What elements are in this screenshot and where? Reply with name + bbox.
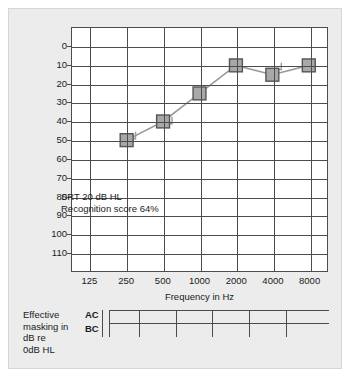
threshold-marker-4000hz	[266, 68, 279, 81]
audiogram-plot-area	[71, 27, 328, 272]
x-tick-label-1000: 1000	[180, 275, 220, 287]
masking-caption-line-4: 0dB HL	[23, 344, 85, 356]
gridline-horizontal-30	[72, 103, 327, 104]
masking-column-divider-4000	[249, 310, 250, 337]
x-tick-label-125: 125	[69, 275, 109, 287]
gridline-horizontal-20	[72, 85, 327, 86]
masking-column-divider-500	[139, 310, 140, 337]
y-tick-label-20: 20	[37, 79, 67, 89]
masking-column-divider-250	[102, 310, 103, 337]
masking-column-divider-1000	[176, 310, 177, 337]
x-tick-label-500: 500	[143, 275, 183, 287]
gridline-horizontal-50	[72, 141, 327, 142]
gridline-horizontal-0	[72, 47, 327, 48]
y-tick-label-40: 40	[37, 116, 67, 126]
masking-caption-line-3: dB re	[23, 332, 85, 344]
gridline-horizontal-100	[72, 235, 327, 236]
x-tick-label-250: 250	[106, 275, 146, 287]
masking-caption-line-2: masking in	[23, 321, 85, 333]
masking-column-divider-8000	[286, 310, 287, 337]
y-tick-label-0: 0	[37, 41, 67, 51]
x-axis-ticks: 1252505001000200040008000	[71, 275, 328, 289]
gridline-horizontal-70	[72, 179, 327, 180]
y-tick-label-50: 50	[37, 135, 67, 145]
effective-masking-table: Effective masking in dB re 0dB HL AC BC	[23, 309, 329, 361]
y-tick-label-110: 110	[37, 248, 67, 258]
masking-row-label-ac: AC	[85, 309, 109, 321]
y-axis-ticks: 0102030405060708090100110	[31, 27, 67, 272]
masking-left-boundary	[109, 310, 110, 337]
gridline-horizontal-90	[72, 216, 327, 217]
masking-hline-0	[109, 310, 329, 311]
masking-row-label-bc: BC	[85, 323, 109, 335]
srt-annotation-line: SRT 20 dB HL	[61, 191, 159, 203]
masking-table-caption: Effective masking in dB re 0dB HL	[23, 309, 85, 355]
gridline-horizontal-10	[72, 66, 327, 67]
y-axis-title: Hearing level in dB re ANSI, 1969	[0, 0, 11, 29]
speech-audiometry-annotation: SRT 20 dB HL Recognition score 64%	[61, 191, 159, 215]
x-tick-label-2000: 2000	[216, 275, 256, 287]
y-tick-label-100: 100	[37, 229, 67, 239]
x-tick-label-4000: 4000	[253, 275, 293, 287]
gridline-horizontal-110	[72, 254, 327, 255]
x-axis-title: Frequency in Hz	[71, 291, 328, 302]
audiogram-figure-panel: Hearing level in dB re ANSI, 1969 010203…	[8, 8, 342, 369]
masking-column-divider-2000	[212, 310, 213, 337]
gridline-horizontal-60	[72, 160, 327, 161]
x-tick-label-8000: 8000	[290, 275, 330, 287]
recognition-score-annotation-line: Recognition score 64%	[61, 203, 159, 215]
y-tick-label-10: 10	[37, 60, 67, 70]
masking-table-grid: AC BC	[85, 309, 329, 349]
y-tick-label-30: 30	[37, 97, 67, 107]
threshold-marker-1000hz	[193, 87, 206, 100]
y-tick-label-60: 60	[37, 154, 67, 164]
masking-hline-1	[109, 323, 329, 324]
masking-caption-line-1: Effective	[23, 309, 85, 321]
gridline-horizontal-40	[72, 122, 327, 123]
y-tick-label-70: 70	[37, 173, 67, 183]
